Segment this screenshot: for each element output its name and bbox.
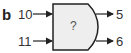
gate-label: ? bbox=[70, 20, 77, 32]
output-label-1: 5 bbox=[116, 8, 123, 21]
output-label-2: 6 bbox=[116, 35, 123, 48]
input-label-2: 11 bbox=[18, 35, 32, 48]
input-label-1: 10 bbox=[18, 8, 32, 21]
